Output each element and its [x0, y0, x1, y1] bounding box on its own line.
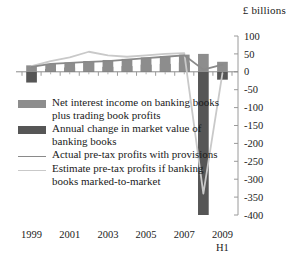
- y-axis-tick-label: 50: [244, 49, 255, 60]
- y-axis-tick-label: 100: [244, 31, 260, 42]
- legend-estimate-pretax-profits: Estimate pre-tax profits if banking book…: [18, 162, 223, 187]
- legend-actual-pretax-profits: Actual pre-tax profits with provisions: [18, 148, 223, 161]
- x-axis-tick-label: 2005: [136, 229, 157, 240]
- x-axis-tick-label: 2001: [59, 229, 80, 240]
- x-axis-tick-label: 2007: [174, 229, 195, 240]
- bar-net-interest-income: [160, 56, 171, 72]
- y-axis-tick-label: -300: [244, 174, 263, 185]
- legend-swatch-actual-pretax-profits: [18, 148, 48, 157]
- legend-swatch-net-interest-income: [18, 96, 48, 108]
- bar-net-interest-income: [122, 59, 133, 72]
- y-axis-tick-label: -400: [244, 210, 263, 221]
- legend-label-actual-pretax-profits: Actual pre-tax profits with provisions: [48, 148, 218, 161]
- legend-swatch-estimate-pretax-profits: [18, 162, 48, 171]
- y-axis-tick-label: -100: [244, 102, 263, 113]
- x-axis-tick-label: 2009: [212, 229, 233, 240]
- legend-swatch-annual-change-market-value: [18, 122, 48, 134]
- chart-legend: Net interest income on banking books plu…: [18, 96, 223, 188]
- x-axis-tick-label: 2003: [97, 229, 118, 240]
- legend-annual-change-market-value: Annual change in market value of banking…: [18, 122, 223, 147]
- y-axis-tick-label: -50: [244, 84, 258, 95]
- y-axis-tick-label: -250: [244, 156, 263, 167]
- x-axis-tick-label: 1999: [21, 229, 42, 240]
- legend-label-net-interest-income: Net interest income on banking books plu…: [48, 96, 223, 121]
- legend-net-interest-income: Net interest income on banking books plu…: [18, 96, 223, 121]
- y-axis-tick-label: -150: [244, 120, 263, 131]
- legend-label-annual-change-market-value: Annual change in market value of banking…: [48, 122, 223, 147]
- x-axis-tick-sublabel: H1: [216, 242, 229, 253]
- bar-net-interest-income: [217, 62, 228, 72]
- y-axis-tick-label: -350: [244, 192, 263, 203]
- legend-label-estimate-pretax-profits: Estimate pre-tax profits if banking book…: [48, 162, 223, 187]
- legend-line-icon: [18, 156, 46, 157]
- y-axis-tick-label: 0: [244, 66, 249, 77]
- legend-color-box-icon: [18, 126, 46, 134]
- legend-color-box-icon: [18, 100, 46, 108]
- legend-line-icon: [18, 170, 46, 171]
- chart-figure: £ billions 100500-50-100-150-200-250-300…: [0, 0, 292, 262]
- bar-net-interest-income: [141, 57, 152, 71]
- bar-annual-change-market-value: [26, 72, 37, 83]
- y-axis-tick-label: -200: [244, 138, 263, 149]
